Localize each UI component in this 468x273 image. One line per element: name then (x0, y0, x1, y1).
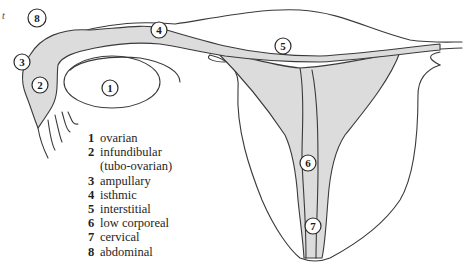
uterus-right-edge (431, 52, 440, 65)
legend-number: 4 (88, 188, 100, 202)
marker-2: 2 (32, 77, 48, 93)
svg-text:4: 4 (156, 24, 162, 36)
legend-item-interstitial: 5 interstitial (88, 202, 172, 216)
marker-1: 1 (102, 80, 118, 96)
marker-5: 5 (275, 38, 291, 54)
legend-label: infundibular (100, 145, 162, 159)
legend-label: ampullary (100, 174, 151, 188)
legend-label: (tubo-ovarian) (100, 159, 172, 173)
legend-number: 7 (88, 230, 100, 244)
legend-item-low-corporeal: 6 low corporeal (88, 216, 172, 230)
anatomy-diagram: 1 2 3 4 5 6 7 8 (0, 0, 468, 273)
legend-label: low corporeal (100, 216, 169, 230)
corner-mark: t (2, 10, 5, 21)
legend-item-infundibular-continuation: (tubo-ovarian) (88, 159, 172, 173)
legend-item-cervical: 7 cervical (88, 230, 172, 244)
legend-label: abdominal (100, 245, 153, 259)
legend-item-infundibular: 2 infundibular (88, 145, 172, 159)
svg-text:8: 8 (34, 12, 40, 24)
legend-label: interstitial (100, 202, 151, 216)
marker-7: 7 (305, 218, 321, 234)
marker-8: 8 (28, 9, 46, 27)
svg-text:1: 1 (107, 82, 113, 94)
legend-item-ovarian: 1 ovarian (88, 131, 172, 145)
marker-3: 3 (14, 54, 30, 70)
svg-text:6: 6 (305, 157, 311, 169)
legend-number: 8 (88, 245, 100, 259)
marker-6: 6 (300, 155, 316, 171)
legend-number: 2 (88, 145, 100, 159)
svg-text:2: 2 (37, 79, 43, 91)
marker-4: 4 (151, 22, 167, 38)
legend-number: 3 (88, 174, 100, 188)
svg-text:3: 3 (19, 56, 25, 68)
legend-number: 5 (88, 202, 100, 216)
legend-label: isthmic (100, 188, 137, 202)
legend: 1 ovarian 2 infundibular (tubo-ovarian) … (88, 131, 172, 259)
legend-number: 6 (88, 216, 100, 230)
legend-label: cervical (100, 230, 140, 244)
legend-item-abdominal: 8 abdominal (88, 245, 172, 259)
legend-item-isthmic: 4 isthmic (88, 188, 172, 202)
legend-label: ovarian (100, 131, 137, 145)
legend-number: 1 (88, 131, 100, 145)
legend-item-ampullary: 3 ampullary (88, 174, 172, 188)
svg-text:5: 5 (280, 40, 286, 52)
svg-text:7: 7 (310, 220, 316, 232)
